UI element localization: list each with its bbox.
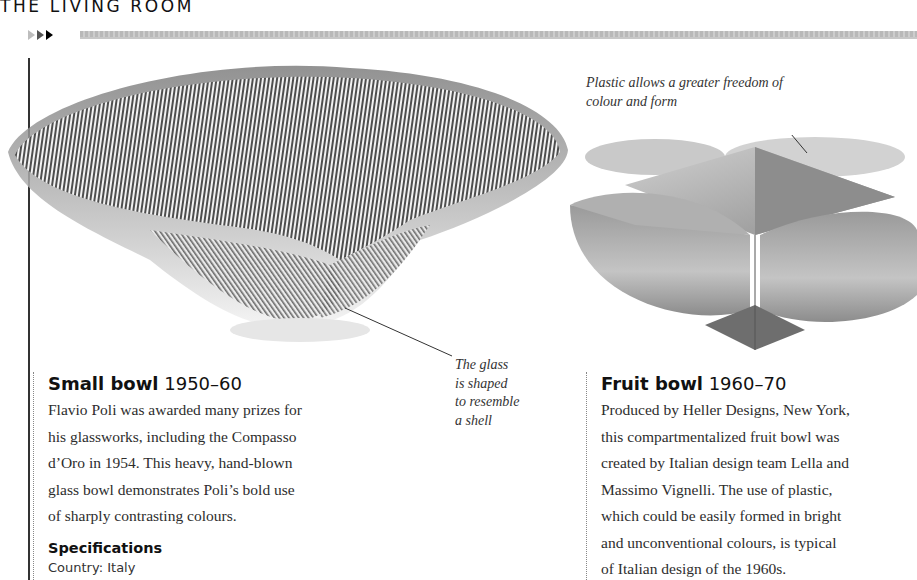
section-title: THE LIVING ROOM [0,0,194,16]
text-line: d’Oro in 1954. This heavy, hand-blown [48,450,453,477]
item-name: Small bowl [48,373,159,394]
annotation-line: a shell [455,412,555,431]
item-title: Small bowl 1950–60 [48,372,453,396]
item-title: Fruit bowl 1960–70 [601,372,917,396]
item-description: Flavio Poli was awarded many prizes for … [48,397,453,530]
annotation-plastic: Plastic allows a greater freedom of colo… [586,74,806,111]
annotation-glass: The glass is shaped to resemble a shell [455,356,555,430]
arrow-dark-icon [46,30,53,40]
glass-bowl-image [0,60,580,360]
annotation-line: is shaped [455,375,555,394]
item-description: Produced by Heller Designs, New York, th… [601,397,917,580]
text-line: Produced by Heller Designs, New York, [601,397,917,424]
text-line: Massimo Vignelli. The use of plastic, [601,477,917,504]
item-small-bowl: Small bowl 1950–60 Flavio Poli was award… [33,372,453,580]
text-line: glass bowl demonstrates Poli’s bold use [48,477,453,504]
annotation-line: The glass [455,356,555,375]
item-years: 1950–60 [164,373,242,394]
fruit-bowl-image [565,135,917,375]
arrow-mid-icon [37,30,44,40]
text-line: of Italian design of the 1960s. [601,556,917,580]
text-line: this compartmentalized fruit bowl was [601,424,917,451]
item-fruit-bowl: Fruit bowl 1960–70 Produced by Heller De… [586,372,917,580]
text-line: of sharply contrasting colours. [48,503,453,530]
header-rule [80,31,917,39]
text-line: and unconventional colours, is typical [601,530,917,557]
text-line: which could be easily formed in bright [601,503,917,530]
item-name: Fruit bowl [601,373,703,394]
text-line: created by Italian design team Lella and [601,450,917,477]
specifications-heading: Specifications [48,538,453,558]
arrow-light-icon [28,30,35,40]
nav-arrows [28,30,53,40]
annotation-line: to resemble [455,393,555,412]
text-line: Flavio Poli was awarded many prizes for [48,397,453,424]
text-line: his glassworks, including the Compasso [48,424,453,451]
spec-country: Country: Italy [48,558,453,578]
item-years: 1960–70 [709,373,787,394]
